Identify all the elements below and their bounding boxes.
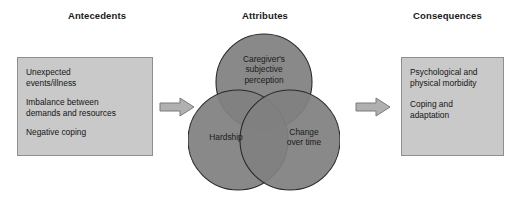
antecedents-item: Imbalance between demands and resources: [26, 97, 144, 118]
arrow-attributes-to-consequences-icon: [355, 96, 391, 118]
heading-consequences: Consequences: [390, 10, 505, 21]
attributes-venn-diagram: [188, 28, 340, 194]
antecedents-item: Negative coping: [26, 127, 144, 138]
consequences-box: Psychological and physical morbidity Cop…: [401, 57, 504, 156]
antecedents-item: Unexpected events/illness: [26, 67, 144, 88]
venn-circle-right: [240, 90, 340, 190]
consequences-item: Coping and adaptation: [410, 99, 495, 120]
heading-antecedents: Antecedents: [42, 10, 152, 21]
concept-analysis-diagram: Antecedents Attributes Consequences Unex…: [0, 0, 515, 203]
consequences-item: Psychological and physical morbidity: [410, 67, 495, 88]
antecedents-box: Unexpected events/illness Imbalance betw…: [17, 57, 153, 156]
heading-attributes: Attributes: [210, 10, 320, 21]
